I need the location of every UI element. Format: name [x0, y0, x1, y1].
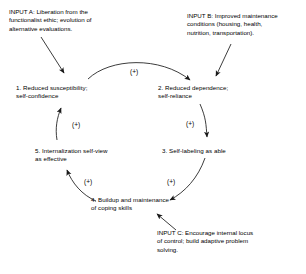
input-a-label: INPUT A: Liberation from the functionali…	[9, 8, 115, 33]
node-5-label: 5. Internalization self-view as effectiv…	[35, 147, 129, 163]
node-1-label: 1. Reduced susceptibility; self-confiden…	[16, 84, 108, 100]
sign-node-1-to-node-2: (+)	[130, 68, 138, 76]
sign-node-3-to-node-4: (+)	[167, 178, 175, 186]
node-2-label: 2. Reduced dependence; self-reliance	[158, 84, 250, 100]
input-b-label: INPUT B: Improved maintenance conditions…	[187, 12, 299, 37]
arrow-input-c-to-node-4	[157, 214, 176, 230]
sign-node-4-to-node-5: (+)	[84, 178, 92, 186]
diagram-canvas: INPUT A: Liberation from the functionali…	[0, 0, 306, 274]
arrow-node-5-to-node-1	[56, 108, 61, 140]
input-c-label: INPUT C: Encourage internal locus of con…	[157, 229, 277, 254]
sign-node-5-to-node-1: (+)	[72, 121, 80, 129]
arrow-input-a-to-node-1	[41, 37, 64, 73]
arrow-input-b-to-node-2	[216, 44, 231, 76]
arrow-node-1-to-node-2	[88, 63, 190, 80]
sign-node-2-to-node-3: (+)	[186, 120, 194, 128]
arrow-node-2-to-node-3	[200, 104, 207, 137]
node-3-label: 3. Self-labeling as able	[162, 147, 260, 155]
node-4-label: 4. Buildup and maintenance of coping ski…	[91, 196, 187, 212]
arrow-node-3-to-node-4	[170, 158, 205, 200]
